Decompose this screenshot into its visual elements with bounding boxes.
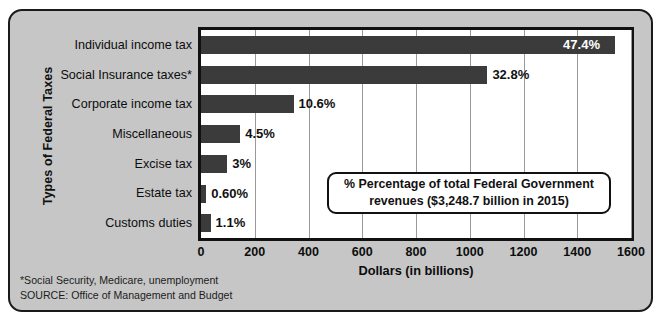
bar-value-label: 1.1% [216,213,246,232]
footnote-group: *Social Security, Medicare, unemployment… [20,273,232,303]
x-tick-label: 1200 [494,245,554,259]
bar [201,185,206,203]
x-tick-label: 600 [332,245,392,259]
bar-row: 10.6% [201,89,631,119]
footnote-note: *Social Security, Medicare, unemployment [20,273,232,288]
chart-panel: Types of Federal Taxes Individual income… [8,9,653,312]
footnote-source: SOURCE: Office of Management and Budget [20,288,232,303]
x-tick-label: 200 [225,245,285,259]
legend-line-1: % Percentage of total Federal Government [344,176,594,193]
x-tick-label: 0 [171,245,231,259]
bar [201,125,240,143]
category-label-group: Individual income taxSocial Insurance ta… [10,27,192,241]
bar [201,95,294,113]
bar-value-label: 10.6% [299,94,336,113]
legend-callout: % Percentage of total Federal Government… [327,172,611,214]
x-tick-label: 1000 [440,245,500,259]
category-label: Social Insurance taxes* [12,67,192,83]
category-label: Miscellaneous [12,126,192,142]
x-tick-label: 400 [279,245,339,259]
bar-value-label: 3% [232,154,251,173]
x-tick-label: 1600 [601,245,661,259]
bar-value-label: 0.60% [211,184,248,203]
bar [201,36,615,54]
bar-row: 32.8% [201,60,631,90]
category-label: Corporate income tax [12,96,192,112]
gridline-1600 [631,30,632,238]
category-label: Individual income tax [12,37,192,53]
x-axis-title: Dollars (in billions) [198,263,634,278]
bar [201,66,487,84]
x-tick-label: 1400 [547,245,607,259]
chart-screenshot: Types of Federal Taxes Individual income… [0,0,661,321]
category-label: Excise tax [12,156,192,172]
category-label: Customs duties [12,215,192,231]
category-label: Estate tax [12,185,192,201]
bar [201,214,211,232]
bar [201,155,227,173]
bar-value-label: 32.8% [492,65,529,84]
bar-value-label: 4.5% [245,124,275,143]
x-tick-label: 800 [386,245,446,259]
bar-row: 47.4% [201,30,631,60]
bar-row: 4.5% [201,119,631,149]
legend-line-2: revenues ($3,248.7 billion in 2015) [369,193,569,210]
bar-value-label: 47.4% [563,35,600,54]
